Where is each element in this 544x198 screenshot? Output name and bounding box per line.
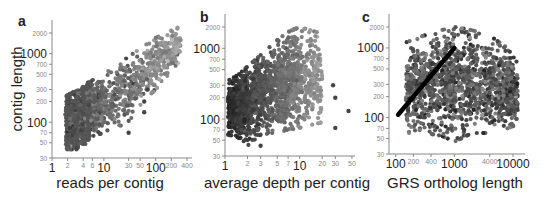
x-tick-label: 3 — [259, 160, 263, 167]
x-tick-label: 400 — [181, 162, 193, 169]
x-tick-label: 200 — [408, 158, 420, 165]
y-tick-label: 200 — [373, 93, 384, 100]
y-tick-label: 1000 — [357, 41, 384, 55]
x-axis-label: reads per contig — [56, 174, 164, 191]
y-tick-label: 300 — [36, 86, 47, 93]
x-tick-label: 1 — [222, 159, 229, 173]
x-tick-label: 1000 — [441, 157, 468, 171]
x-tick-label: 30 — [125, 162, 133, 169]
y-tick-label: 100 — [27, 116, 47, 130]
x-tick-label: 20 — [318, 160, 326, 167]
panel-c: 3050701002003005007001000200010020040010… — [357, 9, 530, 191]
y-tick-label: 2000 — [33, 30, 48, 37]
data-points — [226, 26, 351, 148]
y-tick-label: 200 — [36, 98, 47, 105]
y-tick-label: 500 — [36, 71, 47, 78]
y-tick-label: 700 — [209, 56, 220, 63]
x-tick-label: 4000 — [482, 158, 498, 165]
y-tick-label: 700 — [373, 55, 384, 62]
x-tick-label: 10 — [97, 161, 111, 175]
y-tick-label: 2000 — [370, 24, 385, 31]
figure: 3050701002003005007001000200012461030501… — [0, 0, 544, 198]
y-tick-label: 30 — [40, 155, 48, 162]
x-tick-label: 30 — [331, 160, 339, 167]
x-tick-label: 200 — [166, 162, 178, 169]
data-points — [63, 26, 182, 152]
y-tick-label: 70 — [213, 126, 221, 133]
x-tick-label: 4 — [81, 162, 85, 169]
y-tick-label: 100 — [364, 111, 384, 125]
y-tick-label: 300 — [373, 81, 384, 88]
x-tick-label: 7 — [286, 160, 290, 167]
x-tick-label: 5 — [275, 160, 279, 167]
y-tick-label: 50 — [377, 135, 385, 142]
y-axis-label: contig length — [8, 46, 25, 131]
y-tick-label: 1000 — [193, 42, 220, 56]
y-tick-label: 200 — [209, 94, 220, 101]
y-tick-label: 500 — [373, 65, 384, 72]
panel-a: 3050701002003005007001000200012461030501… — [8, 13, 193, 191]
y-tick-label: 300 — [209, 82, 220, 89]
x-tick-label: 10000 — [496, 157, 530, 171]
y-tick-label: 50 — [40, 139, 48, 146]
y-tick-label: 30 — [213, 153, 221, 160]
y-tick-label: 700 — [36, 61, 47, 68]
x-tick-label: 2 — [66, 162, 70, 169]
y-tick-label: 100 — [200, 113, 220, 127]
x-tick-label: 400 — [425, 158, 437, 165]
x-tick-label: 50 — [136, 162, 144, 169]
x-axis-label: GRS ortholog length — [387, 174, 523, 191]
y-tick-label: 70 — [40, 129, 48, 136]
x-tick-label: 50 — [348, 160, 356, 167]
y-tick-label: 50 — [213, 137, 221, 144]
y-tick-label: 70 — [377, 125, 385, 132]
y-tick-label: 500 — [209, 66, 220, 73]
y-tick-label: 30 — [377, 151, 385, 158]
panel-label: c — [362, 9, 370, 25]
x-tick-label: 1 — [49, 161, 56, 175]
x-tick-label: 6 — [90, 162, 94, 169]
x-tick-label: 10 — [293, 159, 307, 173]
panel-label: b — [200, 9, 209, 25]
panel-label: a — [18, 13, 26, 29]
scatter-figure: 3050701002003005007001000200012461030501… — [0, 0, 544, 198]
x-tick-label: 2 — [246, 160, 250, 167]
panel-b: 3050701002003005007001000200012357102030… — [193, 9, 370, 191]
x-axis-label: average depth per contig — [204, 174, 370, 191]
x-tick-label: 100 — [146, 161, 166, 175]
x-tick-label: 100 — [386, 157, 406, 171]
